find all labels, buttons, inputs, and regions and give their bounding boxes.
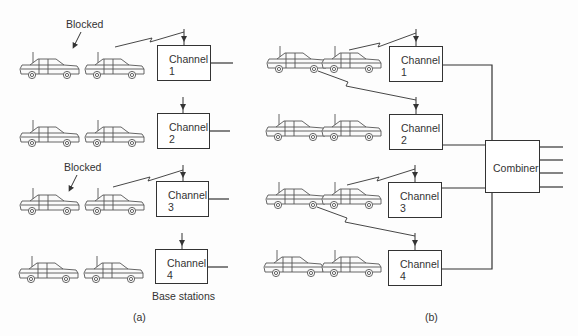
blocked-label-1: Blocked (66, 18, 103, 30)
channel-number: 4 (167, 269, 173, 281)
panel-a-caption: (a) (133, 311, 146, 323)
channel-number: 3 (168, 201, 174, 213)
panel-b-channel-1-box: Channel 1 (389, 46, 443, 82)
channel-number: 1 (169, 65, 175, 77)
channel-label: Channel (167, 257, 206, 269)
channel-label: Channel (401, 122, 440, 134)
channel-number: 1 (401, 66, 407, 78)
panel-b-channel-3-box: Channel 3 (388, 182, 442, 218)
diversity-diagram: Blocked Blocked Channel 1 Channel 2 Chan… (0, 0, 578, 336)
panel-b-caption: (b) (425, 311, 438, 323)
panel-a-channel-4-box: Channel 4 (155, 249, 208, 284)
base-stations-label: Base stations (152, 290, 215, 302)
channel-number: 4 (400, 270, 406, 282)
panel-a-channel-2-box: Channel 2 (157, 113, 210, 149)
channel-label: Channel (401, 54, 440, 66)
channel-label: Channel (400, 258, 439, 270)
channel-number: 3 (400, 202, 406, 214)
combiner-box: Combiner (485, 140, 540, 193)
channel-number: 2 (169, 133, 175, 145)
blocked-label-2: Blocked (64, 161, 101, 173)
panel-a-channel-3-box: Channel 3 (156, 181, 209, 217)
panel-b-cars (264, 46, 381, 277)
combiner-label: Combiner (493, 162, 539, 174)
channel-label: Channel (169, 121, 208, 133)
panel-a-channel-1-box: Channel 1 (157, 45, 211, 81)
channel-label: Channel (168, 189, 207, 201)
channel-label: Channel (169, 53, 208, 65)
panel-b-channel-4-box: Channel 4 (388, 250, 442, 286)
channel-number: 2 (401, 134, 407, 146)
panel-b-channel-2-box: Channel 2 (389, 114, 443, 150)
channel-label: Channel (400, 190, 439, 202)
